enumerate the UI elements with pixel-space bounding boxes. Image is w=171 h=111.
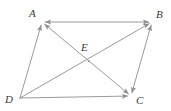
segments-group [20, 22, 151, 98]
diagonal-AC [44, 24, 128, 94]
side-DC [20, 96, 128, 98]
vertex-label-c: C [136, 95, 143, 106]
vertex-label-d: D [5, 94, 13, 105]
geometry-figure: A B C D E [0, 0, 171, 111]
side-AD [20, 25, 41, 98]
vertex-label-e: E [81, 42, 88, 53]
vertex-label-a: A [29, 8, 36, 19]
vertex-label-b: B [156, 9, 163, 20]
intersection-dot [88, 60, 90, 62]
parallelogram-diagram [0, 0, 171, 111]
intersection-point-E [88, 60, 90, 62]
diagonal-DB [20, 24, 149, 98]
side-BC [132, 25, 151, 93]
